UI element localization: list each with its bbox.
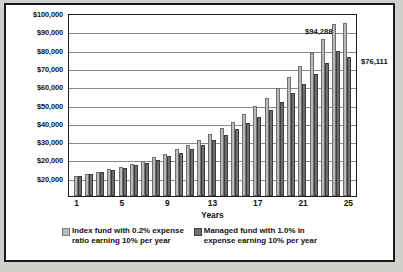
x-axis-title: Years [68, 210, 357, 220]
bar-group [229, 15, 240, 196]
bar-managed-fund [179, 153, 183, 196]
bar-group [274, 15, 285, 196]
x-axis-tick-label: 17 [253, 198, 262, 208]
x-axis-tick-label: 13 [208, 198, 217, 208]
bar-group [207, 15, 218, 196]
bar-group [117, 15, 128, 196]
bar-group [139, 15, 150, 196]
y-axis-tick-label: $50,000 [37, 101, 63, 110]
bar-managed-fund [314, 74, 318, 196]
chart-legend: Index fund with 0.2% expense ratio earni… [62, 226, 362, 245]
bar-group [162, 15, 173, 196]
bar-managed-fund [89, 174, 93, 196]
y-axis-tick-label: $20,000 [37, 174, 63, 183]
bar-group [218, 15, 229, 196]
y-axis-tick-label: $100,000 [33, 10, 63, 19]
y-axis-tick-label: $90,000 [37, 28, 63, 37]
y-axis-tick-label: $80,000 [37, 46, 63, 55]
bar-managed-fund [257, 117, 261, 196]
bar-managed-fund [269, 110, 273, 196]
bar-managed-fund [291, 93, 295, 196]
chart-figure: $100,000$90,000$80,000$70,000$60,000$50,… [4, 3, 395, 262]
bar-group [342, 15, 353, 196]
x-axis-tick-label: 25 [344, 198, 353, 208]
bar-managed-fund [111, 170, 115, 196]
bar-managed-fund [235, 129, 239, 196]
bar-series-container [70, 15, 355, 196]
bar-group [72, 15, 83, 196]
bar-managed-fund [190, 149, 194, 196]
x-axis-tick-label: 9 [165, 198, 170, 208]
x-axis-tick-label: 21 [298, 198, 307, 208]
bar-group [83, 15, 94, 196]
bar-managed-fund [167, 156, 171, 196]
bar-managed-fund [336, 51, 340, 196]
y-axis-tick-label: $20,000 [37, 156, 63, 165]
bar-managed-fund [201, 145, 205, 196]
bar-group [263, 15, 274, 196]
bar-managed-fund [224, 135, 228, 196]
y-axis-tick-label: $60,000 [37, 83, 63, 92]
bar-managed-fund [302, 84, 306, 196]
bar-managed-fund [212, 140, 216, 196]
bar-group [297, 15, 308, 196]
bar-group [128, 15, 139, 196]
y-axis-tick-label: $40,000 [37, 119, 63, 128]
bar-group [285, 15, 296, 196]
y-axis-tick-label: $30,000 [37, 138, 63, 147]
data-label-managed-fund: $76,111 [361, 57, 388, 66]
legend-item-index-fund: Index fund with 0.2% expense ratio earni… [62, 226, 184, 245]
bar-group [184, 15, 195, 196]
y-axis-tick-label: $70,000 [37, 64, 63, 73]
bar-group [196, 15, 207, 196]
bar-group [173, 15, 184, 196]
bar-managed-fund [123, 168, 127, 196]
bar-managed-fund [280, 102, 284, 196]
bar-group [252, 15, 263, 196]
bar-group [151, 15, 162, 196]
bar-managed-fund [134, 165, 138, 196]
bar-managed-fund [100, 172, 104, 196]
bar-managed-fund [325, 63, 329, 196]
data-label-index-fund: $94,288 [305, 27, 332, 36]
x-axis-tick-label: 5 [120, 198, 125, 208]
bar-managed-fund [246, 123, 250, 196]
bar-group [106, 15, 117, 196]
bar-group [330, 15, 341, 196]
bar-group [319, 15, 330, 196]
x-axis-tick-label: 1 [74, 198, 79, 208]
bar-managed-fund [347, 57, 351, 196]
legend-item-managed-fund: Managed fund with 1.0% in expense earnin… [194, 226, 317, 245]
y-axis-labels: $100,000$90,000$80,000$70,000$60,000$50,… [6, 5, 66, 206]
bar-group [308, 15, 319, 196]
bar-group [241, 15, 252, 196]
legend-label-index-fund: Index fund with 0.2% expense ratio earni… [72, 226, 184, 245]
legend-swatch-index-fund [62, 228, 70, 236]
bar-group [94, 15, 105, 196]
plot-area [68, 14, 357, 197]
legend-label-managed-fund: Managed fund with 1.0% in expense earnin… [204, 226, 317, 245]
bar-managed-fund [145, 163, 149, 196]
legend-swatch-managed-fund [194, 228, 202, 236]
bar-managed-fund [78, 176, 82, 196]
bar-managed-fund [156, 160, 160, 196]
